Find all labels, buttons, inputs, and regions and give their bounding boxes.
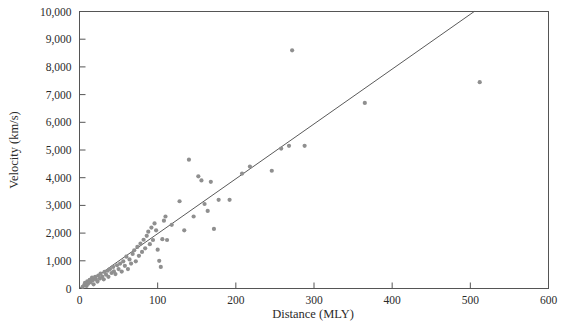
y-tick-label: 1,000 bbox=[46, 255, 72, 268]
data-point bbox=[123, 264, 127, 268]
data-point bbox=[126, 267, 130, 271]
y-tick-label: 9,000 bbox=[46, 33, 72, 46]
data-point bbox=[111, 265, 115, 269]
x-axis-tick-labels: 0100200300400500600 bbox=[77, 294, 558, 306]
data-point bbox=[91, 282, 95, 286]
data-point bbox=[120, 270, 124, 274]
x-tick-label: 600 bbox=[540, 294, 558, 306]
data-point bbox=[152, 221, 156, 225]
y-axis-title: Velocity (km/s) bbox=[7, 111, 21, 188]
data-point bbox=[157, 259, 161, 263]
data-point bbox=[177, 199, 181, 203]
data-point bbox=[287, 144, 291, 148]
data-point bbox=[131, 252, 135, 256]
data-point bbox=[156, 248, 160, 252]
x-tick-label: 100 bbox=[149, 294, 167, 306]
data-point bbox=[132, 248, 136, 252]
data-point bbox=[145, 234, 149, 238]
data-point bbox=[478, 80, 482, 84]
data-point bbox=[206, 209, 210, 213]
x-tick-label: 500 bbox=[462, 294, 480, 306]
data-point bbox=[127, 257, 131, 261]
data-point bbox=[134, 259, 138, 263]
y-tick-label: 6,000 bbox=[46, 116, 72, 129]
data-point bbox=[182, 228, 186, 232]
data-point bbox=[124, 255, 128, 259]
data-point bbox=[290, 48, 294, 52]
data-point bbox=[187, 158, 191, 162]
plot-frame bbox=[80, 12, 549, 289]
x-axis-tick-marks bbox=[80, 283, 549, 289]
data-point bbox=[227, 198, 231, 202]
data-point bbox=[154, 228, 158, 232]
data-point bbox=[217, 198, 221, 202]
data-point bbox=[138, 242, 142, 246]
data-point bbox=[102, 277, 106, 281]
data-point bbox=[303, 144, 307, 148]
data-point bbox=[129, 261, 133, 265]
data-point bbox=[151, 238, 155, 242]
y-tick-label: 3,000 bbox=[46, 199, 72, 212]
y-tick-label: 0 bbox=[66, 283, 72, 295]
data-point bbox=[121, 259, 125, 263]
data-point bbox=[113, 272, 117, 276]
x-tick-label: 0 bbox=[77, 294, 83, 306]
data-point bbox=[165, 238, 169, 242]
data-point bbox=[270, 169, 274, 173]
data-point bbox=[148, 242, 152, 246]
y-axis-tick-marks bbox=[80, 12, 86, 289]
data-point bbox=[240, 171, 244, 175]
y-tick-label: 8,000 bbox=[46, 61, 72, 74]
data-point bbox=[141, 238, 145, 242]
y-axis-tick-labels: 01,0002,0003,0004,0005,0006,0007,0008,00… bbox=[40, 6, 72, 295]
data-point bbox=[137, 254, 141, 258]
data-point bbox=[160, 237, 164, 241]
data-point bbox=[170, 223, 174, 227]
data-point bbox=[202, 202, 206, 206]
hubble-diagram-plot: 01,0002,0003,0004,0005,0006,0007,0008,00… bbox=[0, 0, 562, 325]
x-tick-label: 200 bbox=[227, 294, 245, 306]
data-point bbox=[192, 214, 196, 218]
y-tick-label: 10,000 bbox=[40, 6, 72, 19]
data-point bbox=[146, 230, 150, 234]
x-axis-title: Distance (MLY) bbox=[272, 307, 354, 321]
x-tick-label: 300 bbox=[305, 294, 323, 306]
data-point bbox=[199, 178, 203, 182]
data-point bbox=[135, 245, 139, 249]
data-point bbox=[363, 101, 367, 105]
y-tick-label: 2,000 bbox=[46, 227, 72, 240]
y-tick-label: 5,000 bbox=[46, 144, 72, 157]
x-tick-label: 400 bbox=[384, 294, 402, 306]
scatter-chart-figure: 01,0002,0003,0004,0005,0006,0007,0008,00… bbox=[0, 0, 562, 325]
data-point bbox=[163, 214, 167, 218]
data-point bbox=[159, 265, 163, 269]
data-point bbox=[143, 246, 147, 250]
data-point bbox=[106, 275, 110, 279]
data-point bbox=[209, 180, 213, 184]
data-point bbox=[248, 165, 252, 169]
data-point bbox=[279, 147, 283, 151]
data-point bbox=[212, 227, 216, 231]
data-point bbox=[196, 174, 200, 178]
data-point bbox=[140, 250, 144, 254]
data-point bbox=[162, 219, 166, 223]
y-tick-label: 7,000 bbox=[46, 89, 72, 102]
y-tick-label: 4,000 bbox=[46, 172, 72, 185]
data-points-group bbox=[81, 48, 482, 289]
data-point bbox=[149, 225, 153, 229]
